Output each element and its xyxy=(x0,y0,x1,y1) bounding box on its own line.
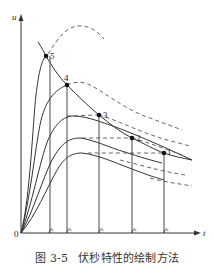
x-axis-label: t xyxy=(203,228,206,238)
figure-number: 图 3-5 xyxy=(35,252,68,265)
point-2-label: 2 xyxy=(136,133,141,143)
figure-title: 伏秒特性的绘制方法 xyxy=(78,252,179,265)
figure-caption: 图 3-5伏秒特性的绘制方法 xyxy=(0,249,214,265)
waveform-1 xyxy=(21,153,164,233)
y-axis-arrow-icon xyxy=(19,14,24,21)
point-5-label: 5 xyxy=(50,51,55,61)
point-3-label: 3 xyxy=(103,110,108,120)
point-4-marker xyxy=(65,83,70,88)
waveform-3 xyxy=(21,116,192,233)
dashed-continuations xyxy=(48,26,192,186)
origin-label: 0 xyxy=(14,229,19,239)
point-1-marker xyxy=(162,151,167,156)
point-2-marker xyxy=(130,136,135,141)
waveform-2 xyxy=(21,138,162,233)
point-4-label: 4 xyxy=(64,73,69,83)
point-5-marker xyxy=(44,54,49,59)
volt-second-characteristic-diagram: u t 0 xyxy=(0,0,214,273)
y-axis-label: u xyxy=(12,12,17,22)
voltage-waveforms xyxy=(21,56,192,233)
point-1-label: 1 xyxy=(167,147,172,157)
point-3-marker xyxy=(97,113,102,118)
volt-second-envelope xyxy=(38,42,192,160)
x-axis-arrow-icon xyxy=(194,231,201,236)
